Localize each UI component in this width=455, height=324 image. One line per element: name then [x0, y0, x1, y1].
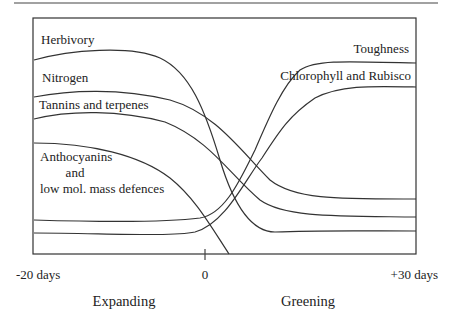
label-and: and [66, 165, 85, 180]
curve-labels-group: HerbivoryNitrogenTannins and terpenesAnt… [39, 32, 411, 196]
label-tannins-and-terpenes: Tannins and terpenes [39, 97, 149, 112]
label-low-mol-mass-defences: low mol. mass defences [40, 181, 164, 196]
tick-label: 0 [202, 267, 209, 282]
label-toughness: Toughness [354, 41, 409, 56]
label-herbivory: Herbivory [41, 32, 95, 47]
label-chlorophyll-and-rubisco: Chlorophyll and Rubisco [280, 68, 411, 83]
phase-labels: ExpandingGreening [93, 293, 335, 309]
tick-label: -20 days [16, 267, 60, 282]
phase-label-greening: Greening [281, 293, 335, 309]
label-nitrogen: Nitrogen [42, 70, 89, 85]
tick-label: +30 days [391, 267, 438, 282]
leaf-development-diagram: HerbivoryNitrogenTannins and terpenesAnt… [0, 0, 455, 324]
label-anthocyanins: Anthocyanins [40, 149, 112, 164]
phase-label-expanding: Expanding [93, 293, 156, 309]
curve-toughness [34, 62, 416, 222]
